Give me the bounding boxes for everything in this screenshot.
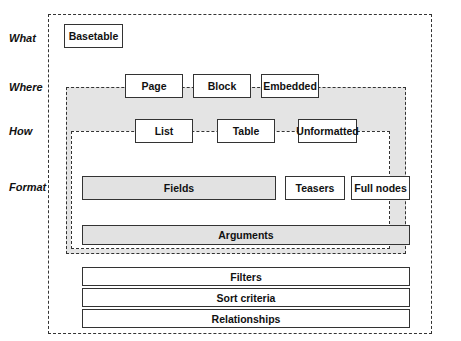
how-table-box: Table [217,119,275,143]
arguments-box: Arguments [82,225,410,245]
how-unformatted-box: Unformatted [298,119,357,143]
row-label-what: What [9,32,36,44]
format-full-nodes-box: Full nodes [351,176,410,200]
row-label-format: Format [9,181,46,193]
where-block-box: Block [193,74,251,98]
filters-box: Filters [82,267,410,286]
row-label-how: How [9,125,32,137]
sort-criteria-box: Sort criteria [82,288,410,307]
format-fields-box: Fields [82,176,276,200]
row-label-where: Where [9,81,43,93]
where-embedded-box: Embedded [261,74,319,98]
where-page-box: Page [125,74,183,98]
basetable-box: Basetable [64,24,123,48]
how-list-box: List [135,119,193,143]
format-teasers-box: Teasers [285,176,345,200]
relationships-box: Relationships [82,309,410,328]
